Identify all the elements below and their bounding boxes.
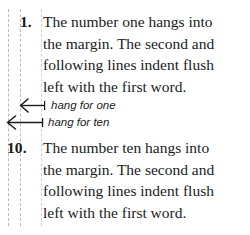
list-item-ten-line-2: the margin. The second and	[43, 159, 248, 181]
list-item-one-line-2: the margin. The second and	[43, 33, 248, 55]
list-item-ten-line-1: The number ten hangs into	[43, 137, 248, 159]
left-arrow-icon	[0, 97, 50, 113]
list-item-one-line-1: The number one hangs into	[43, 11, 248, 33]
annotation-label-hang-for-one: hang for one	[51, 97, 116, 113]
list-item-ten-line-3: following lines indent flush	[43, 180, 248, 202]
left-arrow-icon	[0, 114, 50, 130]
list-item-ten-body: The number ten hangs into the margin. Th…	[43, 137, 248, 223]
list-item-ten-number: 10.	[7, 137, 27, 159]
annotation-label-hang-for-ten: hang for ten	[48, 114, 109, 130]
list-item-one-line-3: following lines indent flush	[43, 54, 248, 76]
list-item-one-body: The number one hangs into the margin. Th…	[43, 11, 248, 97]
list-item-one-number: 1.	[20, 11, 32, 33]
hanging-indent-diagram: 1. The number one hangs into the margin.…	[0, 0, 250, 235]
list-item-ten-line-4: left with the first word.	[43, 202, 248, 224]
list-item-one-line-4: left with the first word.	[43, 76, 248, 98]
